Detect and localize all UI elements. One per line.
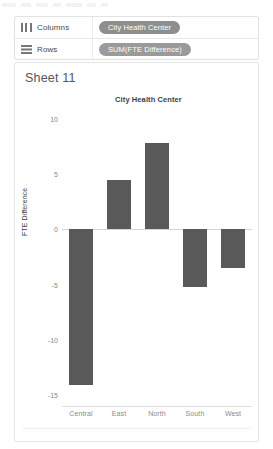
rows-pill-sum-fte-difference[interactable]: SUM(FTE Difference) (99, 43, 191, 56)
x-label-south[interactable]: South (176, 410, 214, 417)
rows-grid-icon (21, 45, 32, 54)
bar-south[interactable] (183, 229, 207, 286)
y-axis-ticks: 1050-5-10-15 (33, 108, 61, 406)
y-tick--15: -15 (48, 391, 58, 398)
columns-shelf-dropzone[interactable]: City Health Center (93, 17, 258, 38)
columns-pill-city-health-center[interactable]: City Health Center (99, 21, 180, 34)
x-label-east[interactable]: East (100, 410, 138, 417)
bar-north[interactable] (145, 143, 169, 229)
bar-chart[interactable]: FTE Difference 1050-5-10-15 CentralEastN… (15, 108, 258, 441)
chart-title: City Health Center (15, 95, 258, 104)
x-axis-line (62, 406, 252, 407)
worksheet-card: Sheet 11 City Health Center FTE Differen… (14, 62, 259, 442)
y-tick--10: -10 (48, 336, 58, 343)
bar-west[interactable] (221, 229, 245, 268)
y-axis-title: FTE Difference (21, 224, 28, 236)
columns-grid-icon (21, 23, 32, 32)
columns-shelf-label: Columns (37, 23, 69, 32)
x-axis-labels: CentralEastNorthSouthWest (62, 410, 252, 417)
toolbar-ghost-4 (66, 3, 82, 7)
y-tick-5: 5 (54, 171, 58, 178)
toolbar-ghost-2 (36, 3, 48, 7)
bar-central[interactable] (69, 229, 93, 385)
y-tick-10: 10 (50, 116, 58, 123)
toolbar-ghost-1 (21, 3, 31, 7)
toolbar-ghost-6 (101, 3, 108, 7)
rows-shelf-label: Rows (37, 45, 57, 54)
x-label-central[interactable]: Central (62, 410, 100, 417)
card-bottom-rule (23, 428, 250, 429)
plot-area (62, 108, 252, 406)
toolbar-ghost-0 (2, 3, 16, 7)
columns-shelf[interactable]: Columns City Health Center (15, 17, 258, 38)
top-toolbar-strip (0, 0, 273, 14)
bar-slot-central (62, 108, 100, 406)
toolbar-ghost-3 (53, 3, 61, 7)
sheet-title: Sheet 11 (25, 71, 76, 85)
rows-shelf[interactable]: Rows SUM(FTE Difference) (15, 38, 258, 59)
toolbar-ghost-5 (87, 3, 96, 7)
y-tick--5: -5 (52, 281, 58, 288)
bar-series (62, 108, 252, 406)
bar-slot-west (214, 108, 252, 406)
rows-shelf-dropzone[interactable]: SUM(FTE Difference) (93, 39, 258, 59)
rows-shelf-label-box: Rows (15, 39, 93, 59)
x-label-north[interactable]: North (138, 410, 176, 417)
bar-east[interactable] (107, 180, 131, 230)
shelf-panel: Columns City Health Center Rows SUM(FTE … (14, 16, 259, 60)
bar-slot-east (100, 108, 138, 406)
bar-slot-south (176, 108, 214, 406)
columns-shelf-label-box: Columns (15, 17, 93, 38)
y-tick-0: 0 (54, 226, 58, 233)
x-label-west[interactable]: West (214, 410, 252, 417)
bar-slot-north (138, 108, 176, 406)
